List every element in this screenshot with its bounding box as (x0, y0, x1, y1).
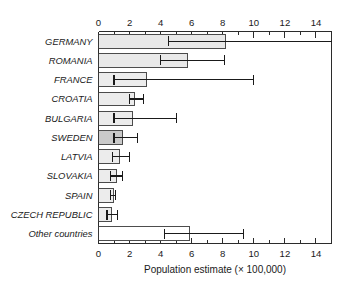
x-tick-label-top: 12 (280, 17, 291, 28)
category-label: BULGARIA (45, 113, 92, 124)
x-tick-label-bottom: 8 (220, 248, 225, 259)
category-label: SWEDEN (51, 132, 92, 143)
x-tick-label-top: 0 (96, 17, 101, 28)
category-label: CZECH REPUBLIC (11, 209, 93, 220)
category-label: SPAIN (65, 190, 93, 201)
x-tick-label-bottom: 6 (189, 248, 194, 259)
category-label: LATVIA (61, 151, 93, 162)
x-tick-label-bottom: 14 (311, 248, 322, 259)
x-tick-label-bottom: 10 (248, 248, 259, 259)
category-label: FRANCE (54, 74, 93, 85)
x-tick-label-top: 2 (127, 17, 132, 28)
x-tick-label-top: 10 (248, 17, 259, 28)
category-label: ROMANIA (49, 55, 93, 66)
x-tick-label-bottom: 12 (280, 248, 291, 259)
x-axis-title: Population estimate (× 100,000) (144, 264, 286, 275)
x-tick-label-top: 6 (189, 17, 194, 28)
chart-figure: 0022446688101012121414GERMANYROMANIAFRAN… (0, 0, 349, 289)
x-tick-label-bottom: 2 (127, 248, 132, 259)
category-label: Other countries (28, 228, 92, 239)
category-label: CROATIA (52, 93, 93, 104)
plot-area: 0022446688101012121414GERMANYROMANIAFRAN… (11, 17, 332, 275)
x-tick-label-bottom: 4 (158, 248, 164, 259)
category-label: SLOVAKIA (47, 170, 93, 181)
x-tick-label-top: 14 (311, 17, 322, 28)
x-tick-label-bottom: 0 (96, 248, 101, 259)
horizontal-bar-chart: 0022446688101012121414GERMANYROMANIAFRAN… (0, 0, 349, 289)
x-tick-label-top: 8 (220, 17, 225, 28)
x-tick-label-top: 4 (158, 17, 164, 28)
category-label: GERMANY (45, 36, 93, 47)
bar[interactable] (99, 92, 135, 106)
